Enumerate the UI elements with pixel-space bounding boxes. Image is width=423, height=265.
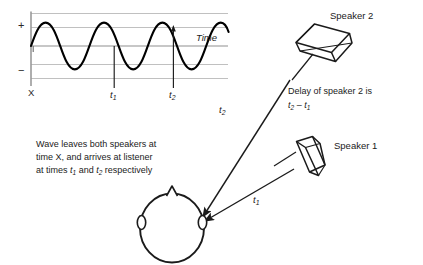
marker-t1-sub: 1 (113, 94, 117, 101)
chart-origin-label: X (28, 87, 34, 98)
path-t2-sub: 2 (222, 109, 226, 116)
path-label-t2: t2 (219, 104, 225, 117)
figure-canvas: + − X Time t1 t2 Speaker 2 Speaker 1 Del… (0, 0, 423, 265)
path-t1-sub: 1 (256, 199, 260, 206)
caption-line-3: at times t1 and t2 respectively (36, 164, 156, 177)
caption-line3-start: at times (36, 165, 70, 175)
marker-t2-sub: 2 (172, 94, 176, 101)
speaker-2-icon (296, 24, 352, 62)
chart-marker-label-t2: t2 (169, 89, 175, 102)
delay-annotation-line2: t2 – t1 (288, 99, 372, 112)
speaker-1-label: Speaker 1 (334, 140, 377, 151)
speaker-1-icon (297, 137, 326, 176)
caption-line3-end: respectively (102, 165, 152, 175)
delay-minus: – (294, 100, 304, 110)
caption-line-1: Wave leaves both speakers at (36, 138, 156, 151)
speaker-1-stand (274, 152, 296, 166)
path-label-t1: t1 (253, 194, 259, 207)
chart-marker-label-t1: t1 (110, 89, 116, 102)
chart-y-axis (31, 12, 33, 87)
chart-axis-minus-label: − (18, 64, 24, 77)
right-ear-icon (198, 216, 206, 230)
delay-annotation-line1: Delay of speaker 2 is (288, 85, 372, 98)
caption-line3-mid: and (76, 165, 96, 175)
caption-line-2: time X, and arrives at listener (36, 151, 156, 164)
speaker-2-stand (292, 54, 313, 80)
delay-t1-sub: 1 (307, 104, 311, 111)
speaker-2-label: Speaker 2 (330, 10, 373, 21)
chart-axis-plus-label: + (18, 19, 24, 32)
listener-head (137, 186, 206, 263)
chart-time-axis-label: Time (196, 32, 217, 43)
sound-path-speaker1-arrow (204, 169, 294, 222)
nose-icon (167, 186, 178, 196)
delay-annotation: Delay of speaker 2 is t2 – t1 (288, 85, 372, 112)
explanatory-caption: Wave leaves both speakers at time X, and… (36, 138, 156, 177)
head-outline (140, 194, 204, 263)
left-ear-icon (137, 216, 145, 230)
